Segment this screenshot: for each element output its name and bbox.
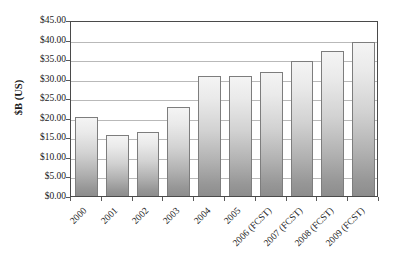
bar-chart: $B (US) $45.00$40.00$35.00$30.00$25.00$2… [0,0,402,276]
x-axis-tick-labels: 2000200120022003200420052006 (FCST)2007 … [0,0,402,276]
